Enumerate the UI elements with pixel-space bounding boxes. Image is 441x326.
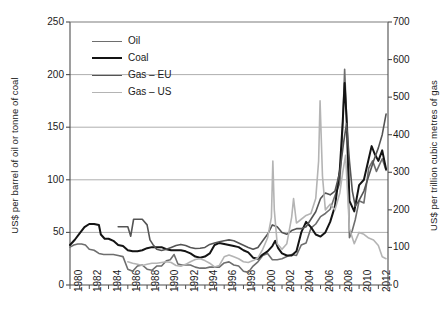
legend-swatch-line-icon — [92, 57, 122, 59]
legend-swatch-line-icon — [92, 41, 122, 42]
legend-item-oil: Oil — [92, 36, 171, 46]
legend-item-label: Oil — [128, 36, 140, 46]
legend-item-coal: Coal — [92, 53, 171, 63]
legend-item-label: Coal — [128, 53, 149, 63]
plot-area — [0, 0, 441, 326]
legend-swatch-line-icon — [92, 92, 122, 93]
chart-legend: OilCoalGas – EUGas – US — [92, 36, 171, 97]
series-line-gas-eu — [118, 114, 386, 250]
legend-item-gas-eu: Gas – EU — [92, 70, 171, 80]
legend-item-label: Gas – US — [128, 87, 171, 97]
price-comparison-chart: US$ per barrel of oil or tonne of coal U… — [0, 0, 441, 326]
legend-item-gas-us: Gas – US — [92, 87, 171, 97]
legend-swatch-line-icon — [92, 75, 122, 76]
legend-item-label: Gas – EU — [128, 70, 171, 80]
